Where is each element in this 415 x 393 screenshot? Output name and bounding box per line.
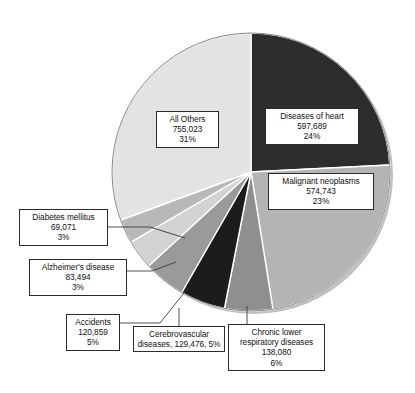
callout-label: All Others [160,114,215,124]
callout-label: Diseases of heart [269,111,355,121]
callout-all-others: All Others 755,023 31% [156,111,219,148]
callout-value: 597,689 [269,121,355,131]
callout-label: Alzheimer's disease [33,262,123,272]
callout-percent: 5% [70,337,116,347]
callout-label: Malignant neoplasms [272,176,370,186]
callout-value: 755,023 [160,124,215,134]
callout-chronic-lower-respiratory-diseases: Chronic lower respiratory diseases 138,0… [228,324,325,371]
callout-percent: 23% [272,196,370,206]
callout-value: 138,080 [232,347,321,357]
callout-cerebrovascular-diseases: Cerebrovascular diseases, 129,476, 5% [133,326,225,352]
callout-value: 69,071 [23,222,104,232]
pie-chart-figure: Diseases of heart 597,689 24% Malignant … [0,0,415,393]
callout-percent: 3% [33,282,123,292]
pie-slice-diseases-of-heart[interactable] [251,33,390,172]
callout-label: Diabetes mellitus [23,212,104,222]
callout-label: Accidents [70,317,116,327]
callout-label-line1: Chronic lower [232,327,321,337]
callout-percent: 24% [269,131,355,141]
callout-diseases-of-heart: Diseases of heart 597,689 24% [265,108,359,145]
callout-alzheimers-disease: Alzheimer's disease 83,494 3% [29,259,127,296]
callout-diabetes-mellitus: Diabetes mellitus 69,071 3% [19,209,108,246]
callout-value: 120,859 [70,327,116,337]
leader-line-accidents [120,288,188,323]
callout-percent: 3% [23,232,104,242]
callout-label-line2: respiratory diseases [232,337,321,347]
callout-percent: 31% [160,134,215,144]
callout-percent: 6% [232,358,321,368]
callout-label: Cerebrovascular [137,329,221,339]
callout-accidents: Accidents 120,859 5% [66,314,120,351]
callout-value: 83,494 [33,272,123,282]
callout-value: 574,743 [272,186,370,196]
callout-malignant-neoplasms: Malignant neoplasms 574,743 23% [268,173,374,210]
callout-value: diseases, 129,476, 5% [137,339,221,349]
